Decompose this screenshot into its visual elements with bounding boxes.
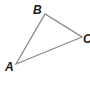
triangle-diagram: A B C bbox=[0, 0, 90, 85]
vertex-label-a: A bbox=[4, 60, 14, 74]
triangle-figure: A B C bbox=[0, 0, 90, 85]
triangle-abc bbox=[16, 14, 82, 64]
vertex-label-c: C bbox=[83, 32, 90, 46]
vertex-label-b: B bbox=[33, 3, 42, 17]
